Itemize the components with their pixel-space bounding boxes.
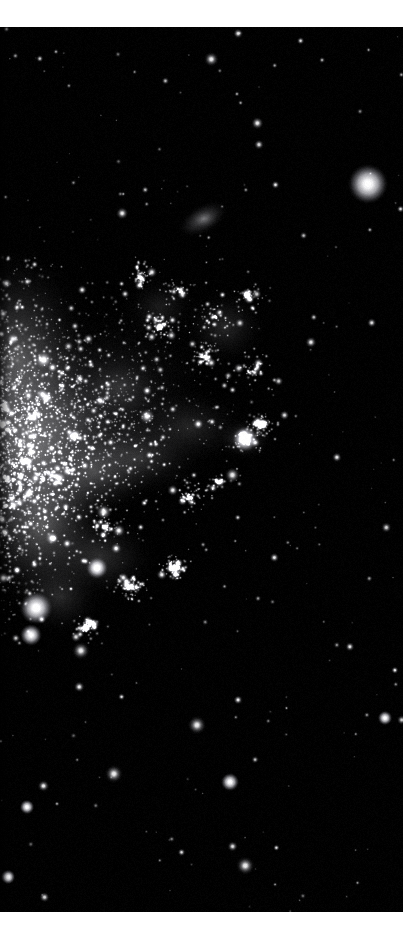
sky-canvas (0, 27, 403, 912)
page-root (0, 0, 419, 934)
page-margin-top (5, 0, 419, 27)
page-margin-right (403, 0, 419, 912)
figure-caption (8, 915, 408, 931)
astronomical-image-plate (0, 27, 403, 912)
page-margin-top-left (0, 0, 5, 22)
